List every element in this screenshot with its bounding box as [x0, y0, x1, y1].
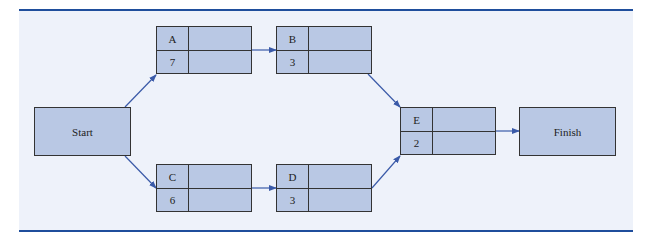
node-b-bottom-right: [309, 50, 371, 73]
node-e: E 2: [400, 107, 496, 155]
node-c-name: C: [157, 165, 189, 189]
node-e-duration: 2: [401, 131, 433, 154]
arrow-d-e: [372, 156, 400, 188]
node-e-name: E: [401, 108, 433, 132]
node-e-top-right: [433, 108, 495, 132]
start-label: Start: [72, 126, 93, 138]
node-a-name: A: [157, 27, 189, 51]
start-node: Start: [34, 107, 131, 156]
node-e-bottom-right: [433, 131, 495, 154]
node-a-bottom-right: [189, 50, 251, 73]
node-d-duration: 3: [277, 188, 309, 211]
node-a-duration: 7: [157, 50, 189, 73]
finish-label: Finish: [554, 126, 582, 138]
arrow-start-c: [125, 156, 156, 188]
arrow-start-a: [125, 75, 156, 107]
finish-node: Finish: [519, 107, 616, 156]
node-b-top-right: [309, 27, 371, 51]
node-d-bottom-right: [309, 188, 371, 211]
node-c: C 6: [156, 164, 252, 212]
node-a-top-right: [189, 27, 251, 51]
node-d-name: D: [277, 165, 309, 189]
node-c-bottom-right: [189, 188, 251, 211]
node-b-duration: 3: [277, 50, 309, 73]
node-b: B 3: [276, 26, 372, 74]
node-d-top-right: [309, 165, 371, 189]
node-b-name: B: [277, 27, 309, 51]
node-a: A 7: [156, 26, 252, 74]
node-c-duration: 6: [157, 188, 189, 211]
node-c-top-right: [189, 165, 251, 189]
arrow-b-e: [368, 74, 400, 107]
node-d: D 3: [276, 164, 372, 212]
